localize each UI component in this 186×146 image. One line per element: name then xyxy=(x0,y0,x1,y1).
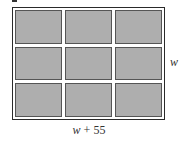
grid-cell xyxy=(65,47,112,81)
grid-cell xyxy=(115,83,162,117)
grid-cell xyxy=(115,47,162,81)
grid-3x3 xyxy=(15,10,162,117)
outer-rectangle-frame xyxy=(12,7,165,120)
length-label-variable: w xyxy=(73,123,81,137)
grid-cell xyxy=(15,47,62,81)
clipped-mark xyxy=(12,0,17,2)
grid-cell xyxy=(15,10,62,44)
grid-cell xyxy=(65,10,112,44)
grid-cell xyxy=(115,10,162,44)
height-label: w xyxy=(170,55,178,70)
grid-cell xyxy=(65,83,112,117)
length-label: w + 55 xyxy=(0,123,178,138)
length-label-operator: + 55 xyxy=(81,123,106,137)
grid-cell xyxy=(15,83,62,117)
